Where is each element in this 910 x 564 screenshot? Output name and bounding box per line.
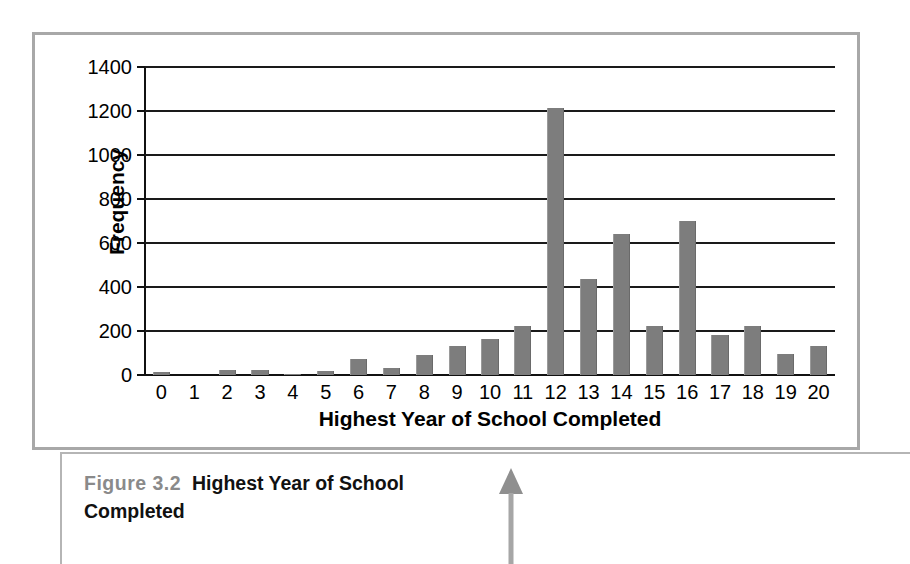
x-axis-tick-label: 6 (353, 381, 364, 404)
gridline (145, 198, 835, 200)
bar (711, 335, 728, 375)
x-axis-tick-label: 2 (222, 381, 233, 404)
x-axis-tick-label: 11 (512, 381, 533, 404)
gridline (145, 110, 835, 112)
bar (580, 279, 597, 375)
bar (679, 221, 696, 375)
y-axis-tick-label: 0 (121, 364, 132, 387)
x-axis-tick-label: 8 (419, 381, 430, 404)
y-axis-tick-label: 1400 (88, 56, 133, 79)
x-axis-tick-label: 3 (254, 381, 265, 404)
y-axis-tick (137, 198, 145, 200)
bar (416, 355, 433, 375)
bar (284, 374, 301, 375)
y-axis-tick (137, 66, 145, 68)
up-arrow-icon (498, 466, 524, 564)
y-axis-tick (137, 242, 145, 244)
y-axis-tick (137, 286, 145, 288)
x-axis-tick-label: 15 (643, 381, 665, 404)
y-axis-tick-label: 600 (99, 232, 132, 255)
x-axis-tick-label: 0 (156, 381, 167, 404)
y-axis-tick-label: 200 (99, 320, 132, 343)
bar (514, 326, 531, 376)
x-axis-tick-label: 20 (807, 381, 829, 404)
caption-side-rule (60, 452, 62, 564)
bar (317, 371, 334, 375)
bar (744, 326, 761, 376)
gridline (145, 154, 835, 156)
y-axis-tick (137, 110, 145, 112)
bar (153, 372, 170, 375)
x-axis-tick-label: 4 (287, 381, 298, 404)
bar (383, 368, 400, 375)
y-axis-tick (137, 154, 145, 156)
bar (777, 354, 794, 375)
x-axis-tick-label: 5 (320, 381, 331, 404)
y-axis-tick-label: 1200 (88, 100, 133, 123)
y-axis-tick (137, 374, 145, 376)
bar-chart: Frequency 0200400600800100012001400 0123… (35, 35, 857, 447)
y-axis-tick-label: 400 (99, 276, 132, 299)
bar (547, 108, 564, 375)
gridline (145, 66, 835, 68)
bar (646, 326, 663, 376)
gridline (145, 330, 835, 332)
x-axis-tick-label: 13 (577, 381, 599, 404)
y-axis-tick-label: 800 (99, 188, 132, 211)
figure-frame: Frequency 0200400600800100012001400 0123… (32, 32, 860, 450)
x-axis-tick-label: 16 (676, 381, 698, 404)
bar (350, 359, 367, 376)
x-axis-tick-label: 9 (452, 381, 463, 404)
bar (251, 370, 268, 375)
x-axis-tick-label: 7 (386, 381, 397, 404)
bar (219, 370, 236, 375)
x-axis-title: Highest Year of School Completed (145, 407, 835, 431)
figure-number: Figure 3.2 (84, 472, 181, 494)
bar (481, 339, 498, 375)
y-axis-line (144, 67, 146, 375)
x-axis-tick-label: 19 (775, 381, 797, 404)
x-axis-tick-label: 10 (479, 381, 501, 404)
x-axis-tick-label: 18 (742, 381, 764, 404)
caption-top-rule (60, 452, 910, 454)
plot-area: 0200400600800100012001400 01234567891011… (145, 67, 835, 375)
x-axis-tick-label: 1 (189, 381, 200, 404)
x-axis-tick-label: 14 (610, 381, 632, 404)
y-axis-tick-label: 1000 (88, 144, 133, 167)
x-axis-tick-label: 12 (545, 381, 567, 404)
figure-caption: Figure 3.2 Highest Year of School Comple… (84, 470, 504, 525)
bar (449, 346, 466, 375)
gridline (145, 242, 835, 244)
x-axis-tick-label: 17 (709, 381, 731, 404)
y-axis-tick (137, 330, 145, 332)
gridline (145, 286, 835, 288)
bar (810, 346, 827, 375)
bar (613, 234, 630, 375)
